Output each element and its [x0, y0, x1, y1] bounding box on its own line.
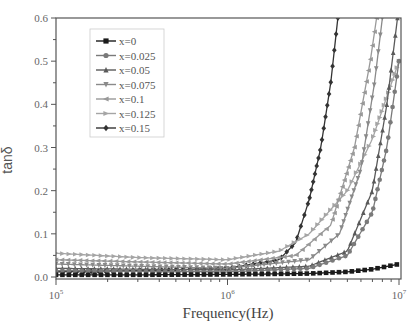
legend: x=0x=0.025x=0.05x=0.075x=0.1x=0.125x=0.1… [90, 29, 164, 137]
legend-label: x=0.05 [119, 64, 150, 76]
x-axis: 105106107 [49, 279, 407, 301]
y-axis: 0.00.10.20.30.40.50.6 [34, 12, 56, 283]
x-axis-title: Frequency(Hz) [183, 305, 274, 322]
tan-delta-vs-frequency-chart: 0.00.10.20.30.40.50.6 105106107 tanδ Fre… [0, 0, 414, 334]
legend-label: x=0.025 [119, 50, 156, 62]
y-tick-label: 0.4 [34, 98, 48, 110]
legend-marker-icon [103, 38, 108, 43]
y-tick-label: 0.1 [34, 228, 48, 240]
y-tick-label: 0.0 [34, 271, 48, 283]
legend-label: x=0.075 [119, 79, 156, 91]
legend-label: x=0.15 [119, 122, 150, 134]
y-tick-label: 0.6 [34, 12, 48, 24]
y-tick-label: 0.3 [34, 142, 48, 154]
x-tick-label: 105 [49, 288, 64, 301]
y-axis-title: tanδ [0, 146, 15, 173]
y-tick-label: 0.2 [34, 185, 48, 197]
legend-label: x=0 [119, 35, 137, 47]
x-tick-label: 106 [220, 288, 235, 301]
legend-label: x=0.1 [119, 93, 144, 105]
legend-label: x=0.125 [119, 108, 156, 120]
x-tick-label: 107 [392, 288, 407, 301]
legend-marker-icon [103, 53, 108, 58]
y-tick-label: 0.5 [34, 55, 48, 67]
